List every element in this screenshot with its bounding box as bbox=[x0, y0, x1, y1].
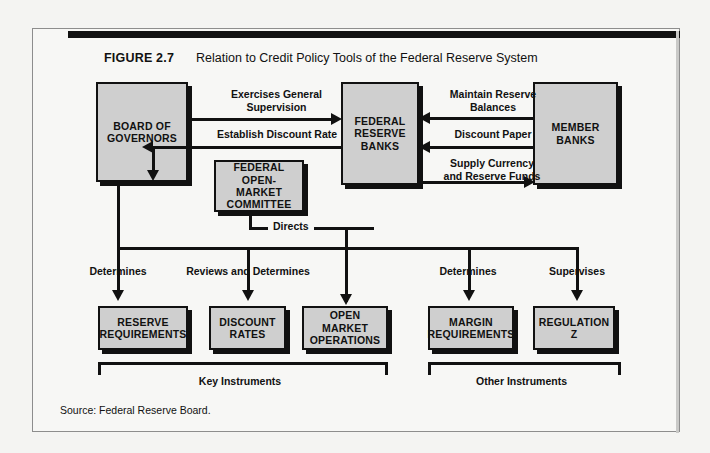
arrowhead-regulation-z bbox=[571, 290, 583, 301]
edge-line-distribution-bus bbox=[117, 247, 579, 250]
node-regulation-z[interactable]: REGULATION Z bbox=[533, 306, 615, 350]
node-openmarket-line2: OPERATIONS bbox=[307, 334, 384, 346]
arrowhead-member-to-frb-balances bbox=[419, 112, 430, 124]
edge-line-frb-to-member-supply bbox=[419, 181, 530, 184]
node-margin-line1: MARGIN bbox=[425, 316, 518, 328]
arrowhead-open-market-operations bbox=[340, 294, 352, 305]
node-reserve-requirements[interactable]: RESERVE REQUIREMENTS bbox=[98, 306, 188, 350]
node-reserve-line2: REQUIREMENTS bbox=[97, 328, 190, 340]
bracket-key-instruments bbox=[98, 362, 388, 375]
arrowhead-reserve-requirements bbox=[112, 290, 124, 301]
node-discount-rates[interactable]: DISCOUNT RATES bbox=[209, 306, 286, 350]
figure-page: FIGURE 2.7Relation to Credit Policy Tool… bbox=[0, 0, 710, 453]
edge-maintain-line1: Maintain Reserve bbox=[450, 88, 536, 100]
edge-supply-line1: Supply Currency bbox=[450, 157, 534, 169]
edge-exercises-line1: Exercises General bbox=[231, 88, 322, 100]
arrowhead-board-to-frb bbox=[331, 113, 342, 125]
arrowhead-margin-requirements bbox=[463, 290, 475, 301]
node-frb-line1: FEDERAL bbox=[351, 115, 408, 127]
node-margin-requirements[interactable]: MARGIN REQUIREMENTS bbox=[428, 306, 514, 350]
edge-exercises-line2: Supervision bbox=[246, 101, 306, 113]
edge-line-board-to-frb bbox=[188, 118, 333, 121]
edge-label-directs: Directs bbox=[268, 220, 314, 232]
node-regz-line2: Z bbox=[536, 328, 613, 340]
node-federal-open-market-committee[interactable]: FEDERAL OPEN-MARKET COMMITTEE bbox=[214, 160, 304, 212]
node-member-line1: MEMBER bbox=[549, 121, 603, 133]
arrowhead-board-down-stub bbox=[147, 170, 159, 181]
arrowhead-discount-rates bbox=[242, 290, 254, 301]
node-fomc-line3: COMMITTEE bbox=[219, 198, 299, 210]
node-federal-reserve-banks[interactable]: FEDERAL RESERVE BANKS bbox=[341, 82, 419, 185]
edge-label-reviews-and-determines: Reviews and Determines bbox=[182, 265, 314, 278]
node-member-line2: BANKS bbox=[549, 134, 603, 146]
bracket-label-other-instruments: Other Instruments bbox=[428, 375, 615, 387]
node-board-of-governors[interactable]: BOARD OF GOVERNORS bbox=[96, 82, 188, 182]
figure-number: FIGURE 2.7 bbox=[104, 51, 174, 65]
edge-maintain-line2: Balances bbox=[470, 101, 516, 113]
edge-line-directs-to-open-market bbox=[345, 227, 348, 302]
node-fomc-line1: FEDERAL bbox=[219, 161, 299, 173]
node-board-line1: BOARD OF bbox=[104, 120, 180, 132]
node-reserve-line1: RESERVE bbox=[97, 316, 190, 328]
arrowhead-member-to-frb-paper bbox=[419, 141, 430, 153]
node-fomc-line2: OPEN-MARKET bbox=[219, 174, 299, 199]
node-frb-line2: RESERVE bbox=[351, 127, 408, 139]
bracket-other-instruments bbox=[428, 362, 621, 375]
edge-label-determines-reserve: Determines bbox=[82, 265, 154, 278]
node-openmarket-line1: OPEN MARKET bbox=[307, 309, 384, 334]
figure-source: Source: Federal Reserve Board. bbox=[60, 404, 211, 416]
figure-title: Relation to Credit Policy Tools of the F… bbox=[196, 51, 538, 65]
node-frb-line3: BANKS bbox=[351, 140, 408, 152]
edge-label-supply-currency: Supply Currency and Reserve Funds bbox=[428, 157, 556, 182]
frame-top-bar bbox=[68, 31, 680, 38]
edge-line-frb-to-board bbox=[152, 146, 341, 149]
node-discount-line1: DISCOUNT bbox=[216, 316, 278, 328]
edge-label-maintain-reserve-balances: Maintain Reserve Balances bbox=[437, 88, 549, 113]
node-regz-line1: REGULATION bbox=[536, 316, 613, 328]
edge-label-discount-paper: Discount Paper bbox=[437, 128, 549, 141]
node-discount-line2: RATES bbox=[216, 328, 278, 340]
frame-right-shadow bbox=[676, 31, 679, 433]
edge-label-determines-margin: Determines bbox=[432, 265, 504, 278]
figure-title-row: FIGURE 2.7Relation to Credit Policy Tool… bbox=[104, 48, 538, 66]
edge-label-establish-discount-rate: Establish Discount Rate bbox=[203, 128, 351, 141]
node-margin-line2: REQUIREMENTS bbox=[425, 328, 518, 340]
bracket-label-key-instruments: Key Instruments bbox=[98, 375, 382, 387]
edge-line-member-to-frb-balances bbox=[428, 117, 533, 120]
edge-label-supervises: Supervises bbox=[541, 265, 613, 278]
edge-line-member-to-frb-paper bbox=[428, 146, 533, 149]
edge-label-exercises-general-supervision: Exercises General Supervision bbox=[209, 88, 344, 113]
edge-line-board-bus-down bbox=[117, 182, 120, 250]
node-open-market-operations[interactable]: OPEN MARKET OPERATIONS bbox=[302, 306, 388, 350]
arrowhead-frb-to-member-supply bbox=[524, 176, 535, 188]
